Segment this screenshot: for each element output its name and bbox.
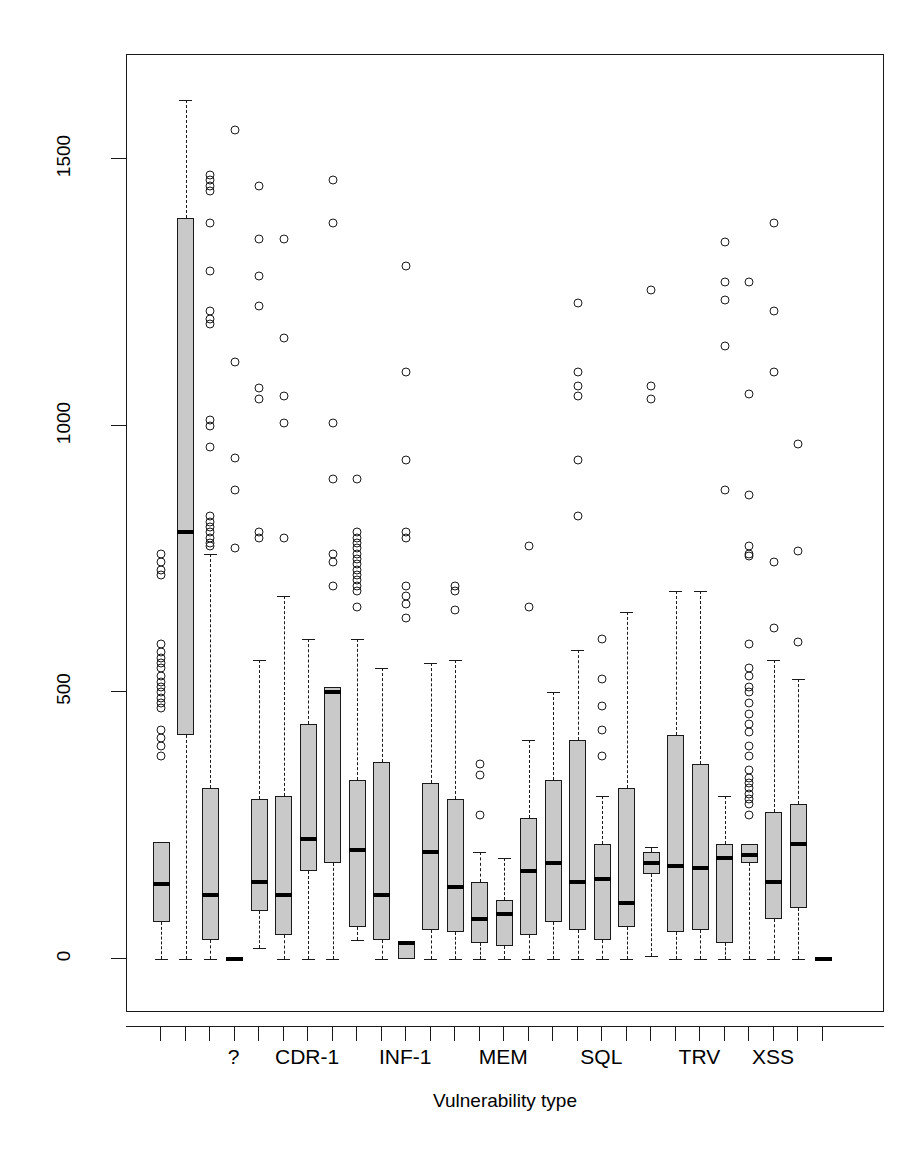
x-axis-tick <box>577 1026 578 1041</box>
x-axis-tick <box>503 1026 504 1041</box>
x-axis: ?CDR-1INF-1MEMSQLTRVXSS <box>0 0 905 1169</box>
x-axis-line <box>126 1026 884 1027</box>
x-axis-tick <box>332 1026 333 1041</box>
x-axis-tick <box>283 1026 284 1041</box>
x-axis-tick <box>626 1026 627 1041</box>
x-axis-tick-label: MEM <box>479 1045 528 1069</box>
x-axis-tick <box>381 1026 382 1041</box>
x-axis-tick <box>160 1026 161 1041</box>
x-axis-tick-label: TRV <box>679 1045 721 1069</box>
x-axis-tick <box>748 1026 749 1041</box>
x-axis-tick-label: CDR-1 <box>275 1045 339 1069</box>
x-axis-tick <box>650 1026 651 1041</box>
x-axis-tick <box>209 1026 210 1041</box>
x-axis-tick <box>258 1026 259 1041</box>
x-axis-tick <box>234 1026 235 1041</box>
x-axis-tick-label: SQL <box>580 1045 622 1069</box>
x-axis-tick <box>773 1026 774 1041</box>
x-axis-tick <box>430 1026 431 1041</box>
x-axis-tick <box>552 1026 553 1041</box>
x-axis-tick <box>822 1026 823 1041</box>
x-axis-tick <box>675 1026 676 1041</box>
x-axis-tick <box>356 1026 357 1041</box>
x-axis-tick-label: INF-1 <box>379 1045 432 1069</box>
x-axis-tick <box>699 1026 700 1041</box>
x-axis-tick <box>601 1026 602 1041</box>
x-axis-tick <box>405 1026 406 1041</box>
x-axis-title: Vulnerability type <box>126 1090 884 1112</box>
x-axis-tick <box>185 1026 186 1041</box>
x-axis-tick <box>454 1026 455 1041</box>
x-axis-tick <box>479 1026 480 1041</box>
x-axis-tick-label: ? <box>228 1045 240 1069</box>
x-axis-tick <box>307 1026 308 1041</box>
x-axis-tick <box>528 1026 529 1041</box>
x-axis-tick <box>797 1026 798 1041</box>
boxplot-figure: 050010001500 Vulnerability fix time ?CDR… <box>0 0 905 1169</box>
x-axis-tick-label: XSS <box>752 1045 794 1069</box>
x-axis-tick <box>724 1026 725 1041</box>
